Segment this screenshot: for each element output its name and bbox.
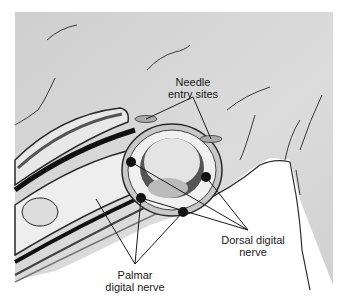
- palmar-digital-nerve-label: Palmar digital nerve: [98, 269, 172, 293]
- label-line: Dorsal digital: [216, 234, 290, 246]
- dorsal-digital-nerve-label: Dorsal digital nerve: [216, 234, 290, 258]
- label-line: nerve: [216, 246, 290, 258]
- label-line: Palmar: [98, 269, 172, 281]
- anatomy-drawing: [0, 0, 344, 298]
- label-line: digital nerve: [98, 281, 172, 293]
- label-line: Needle: [163, 76, 223, 88]
- digital-nerve-block-illustration: Needle entry sites Dorsal digital nerve …: [0, 0, 344, 298]
- label-line: entry sites: [163, 88, 223, 100]
- needle-entry-sites-label: Needle entry sites: [163, 76, 223, 100]
